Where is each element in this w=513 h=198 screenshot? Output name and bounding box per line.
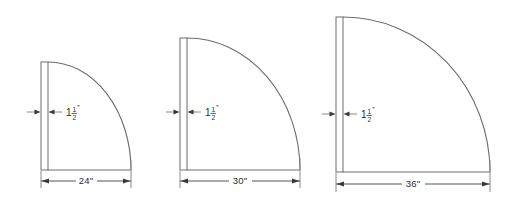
- thickness-arrow-right-36: [344, 112, 350, 117]
- overall-arrow-left-36: [337, 182, 345, 187]
- dimension-drawing-canvas: 1 1 2 ” 24" 1 1: [0, 0, 513, 198]
- quarter-round-arc-30: [187, 38, 300, 170]
- overall-arrow-left-30: [181, 179, 189, 184]
- panel-rect-30: [180, 38, 187, 170]
- overall-arrow-right-24: [123, 179, 131, 184]
- thickness-inch-mark-24: ”: [77, 104, 80, 111]
- panel-rect-36: [336, 17, 343, 172]
- thickness-arrow-right-30: [188, 110, 194, 115]
- thickness-arrow-left-36: [330, 112, 336, 117]
- panel-rect-24: [41, 62, 48, 170]
- thickness-numerator-24: 1: [72, 106, 76, 113]
- overall-dim-label-30: 30": [233, 175, 248, 186]
- thickness-label-30: 1 1 2 ”: [205, 104, 219, 121]
- thickness-label-36: 1 1 2 ”: [361, 106, 375, 123]
- figure-24: 1 1 2 ” 24": [27, 62, 131, 188]
- thickness-inch-mark-36: ”: [372, 106, 375, 113]
- quarter-round-arc-24: [48, 62, 131, 170]
- figure-36: 1 1 2 ” 36": [322, 17, 490, 192]
- thickness-inch-mark-30: ”: [216, 104, 219, 111]
- thickness-numerator-30: 1: [211, 106, 215, 113]
- figure-30: 1 1 2 ” 30": [166, 38, 300, 188]
- thickness-whole-30: 1: [205, 107, 211, 118]
- overall-arrow-right-36: [482, 182, 490, 187]
- thickness-numerator-36: 1: [367, 108, 371, 115]
- thickness-denominator-36: 2: [367, 116, 371, 123]
- thickness-label-24: 1 1 2 ”: [66, 104, 80, 121]
- thickness-arrow-left-24: [35, 110, 41, 115]
- quarter-round-arc-36: [343, 17, 490, 172]
- thickness-whole-24: 1: [66, 107, 72, 118]
- thickness-arrow-left-30: [174, 110, 180, 115]
- thickness-whole-36: 1: [361, 109, 367, 120]
- overall-arrow-left-24: [42, 179, 50, 184]
- thickness-denominator-30: 2: [211, 114, 215, 121]
- overall-dim-label-24: 24": [79, 175, 94, 186]
- drawing-sheet: 1 1 2 ” 24" 1 1: [0, 0, 513, 198]
- overall-arrow-right-30: [292, 179, 300, 184]
- thickness-denominator-24: 2: [72, 114, 76, 121]
- overall-dim-label-36: 36": [406, 178, 421, 189]
- thickness-arrow-right-24: [49, 110, 55, 115]
